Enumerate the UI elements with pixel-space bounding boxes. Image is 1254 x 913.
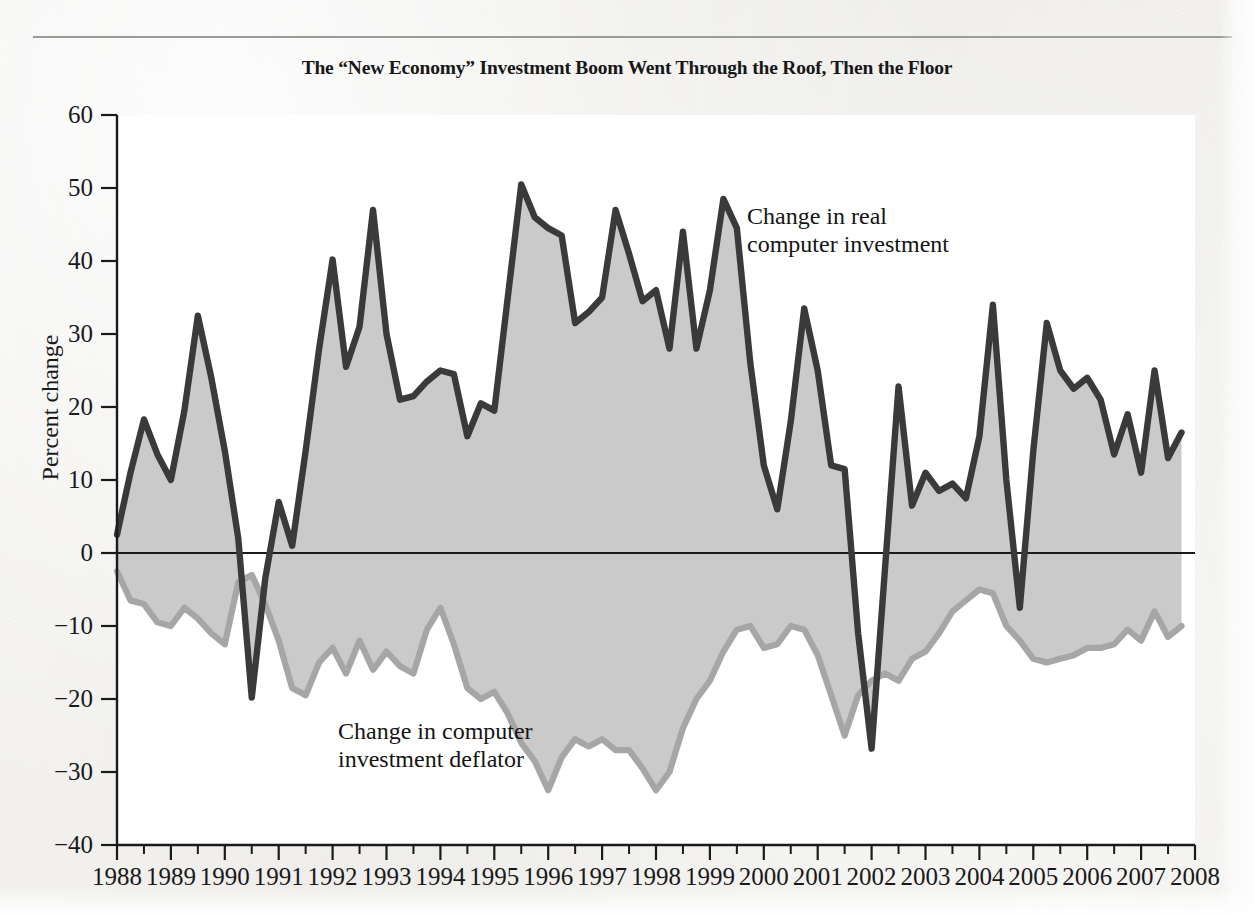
chart-plot-svg [0,0,1254,913]
annotation-real-computer-investment: Change in real computer investment [747,203,949,259]
y-tick-label-40: 40 [29,248,93,273]
y-tick-label-neg10: −10 [29,613,93,638]
y-tick-label-30: 30 [29,321,93,346]
annotation-investment-line2: computer investment [747,231,949,259]
bottom-caption-fragment [0,907,1254,913]
y-tick-label-neg40: −40 [29,832,93,857]
y-tick-label-neg30: −30 [29,759,93,784]
x-tick-label-2008: 2008 [1155,864,1235,889]
y-tick-label-10: 10 [29,467,93,492]
annotation-deflator-line2: investment deflator [338,746,533,774]
chart-figure: Percent change 6050403020100−10−20−30−40… [0,0,1254,913]
y-tick-label-neg20: −20 [29,686,93,711]
y-tick-label-20: 20 [29,394,93,419]
annotation-investment-line1: Change in real [747,203,949,231]
y-tick-label-60: 60 [29,102,93,127]
scanned-page: The “New Economy” Investment Boom Went T… [0,0,1254,913]
y-tick-label-50: 50 [29,175,93,200]
annotation-computer-investment-deflator: Change in computer investment deflator [338,718,533,774]
y-tick-label-0: 0 [29,540,93,565]
annotation-deflator-line1: Change in computer [338,718,533,746]
